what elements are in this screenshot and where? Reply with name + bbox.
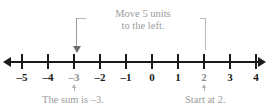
- axis-arrow-right-icon: [258, 57, 266, 67]
- tick-mark: [125, 54, 127, 69]
- number-line-diagram: Move 5 units to the left. –5–4–3–2–10123…: [0, 0, 269, 111]
- callout-label-line-1: Move 5 units: [88, 8, 198, 20]
- tick-mark: [151, 54, 153, 69]
- highlight-pointer-stem: [204, 87, 205, 91]
- tick-mark: [255, 54, 257, 69]
- tick-mark: [73, 54, 75, 69]
- callout-label: Move 5 units to the left.: [86, 8, 200, 31]
- tick-mark: [99, 54, 101, 69]
- move-arrow-line: [76, 18, 77, 48]
- axis-arrow-left-icon: [3, 57, 11, 67]
- tick-mark: [21, 54, 23, 69]
- caption-sum: The sum is –3.: [42, 94, 104, 105]
- callout-bracket-right-leg: [205, 18, 206, 50]
- tick-label: 4: [241, 71, 269, 83]
- tick-mark: [47, 54, 49, 69]
- callout-label-line-2: to the left.: [88, 20, 198, 32]
- tick-mark: [177, 54, 179, 69]
- highlight-pointer-stem: [74, 87, 75, 91]
- tick-mark: [203, 54, 205, 69]
- tick-mark: [229, 54, 231, 69]
- caption-start: Start at 2.: [185, 94, 226, 105]
- move-arrow-head-icon: [73, 46, 81, 53]
